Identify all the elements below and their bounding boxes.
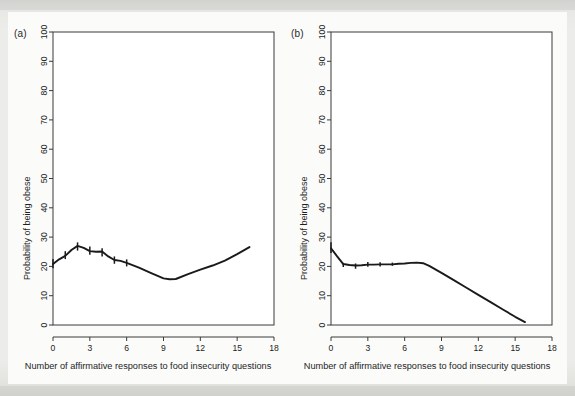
- x-tick-label: 0: [329, 343, 334, 353]
- y-tick-label: 50: [39, 174, 49, 184]
- x-tick-label: 15: [510, 343, 520, 353]
- panel-a-plot: 01020304050607080901000369121518: [8, 12, 287, 384]
- y-tick-label: 40: [317, 203, 327, 213]
- x-tick-label: 18: [269, 343, 279, 353]
- panel-b: (b) Probability of being obese Number of…: [287, 12, 567, 384]
- y-tick-label: 90: [39, 56, 49, 66]
- y-tick-label: 50: [317, 174, 327, 184]
- y-tick-label: 60: [39, 144, 49, 154]
- y-tick-label: 30: [39, 232, 49, 242]
- x-tick-label: 3: [87, 343, 92, 353]
- x-tick-label: 15: [232, 343, 242, 353]
- y-tick-label: 0: [317, 322, 327, 327]
- x-tick-label: 0: [51, 343, 56, 353]
- y-tick-label: 40: [39, 203, 49, 213]
- x-tick-label: 6: [124, 343, 129, 353]
- figure-root: (a) Probability of being obese Number of…: [0, 0, 575, 396]
- y-tick-label: 10: [39, 291, 49, 301]
- x-tick-label: 9: [161, 343, 166, 353]
- x-tick-label: 12: [196, 343, 206, 353]
- y-tick-label: 30: [317, 232, 327, 242]
- panel-a: (a) Probability of being obese Number of…: [8, 12, 287, 384]
- panel-a-axes: 01020304050607080901000369121518: [39, 25, 279, 353]
- y-tick-label: 80: [39, 86, 49, 96]
- y-tick-label: 70: [317, 115, 327, 125]
- y-tick-label: 70: [39, 115, 49, 125]
- y-tick-label: 100: [39, 25, 49, 40]
- figure-plot-field: (a) Probability of being obese Number of…: [8, 12, 567, 384]
- panel-b-axes: 01020304050607080901000369121518: [317, 25, 557, 353]
- x-tick-label: 9: [439, 343, 444, 353]
- y-tick-label: 100: [317, 25, 327, 40]
- y-tick-label: 0: [39, 322, 49, 327]
- x-tick-label: 18: [547, 343, 557, 353]
- y-tick-label: 20: [39, 261, 49, 271]
- y-tick-label: 60: [317, 144, 327, 154]
- y-tick-label: 80: [317, 86, 327, 96]
- x-tick-label: 6: [402, 343, 407, 353]
- y-tick-label: 20: [317, 261, 327, 271]
- y-tick-label: 10: [317, 291, 327, 301]
- x-tick-label: 12: [474, 343, 484, 353]
- y-tick-label: 90: [317, 56, 327, 66]
- panel-b-plot: 01020304050607080901000369121518: [287, 12, 567, 384]
- x-tick-label: 3: [365, 343, 370, 353]
